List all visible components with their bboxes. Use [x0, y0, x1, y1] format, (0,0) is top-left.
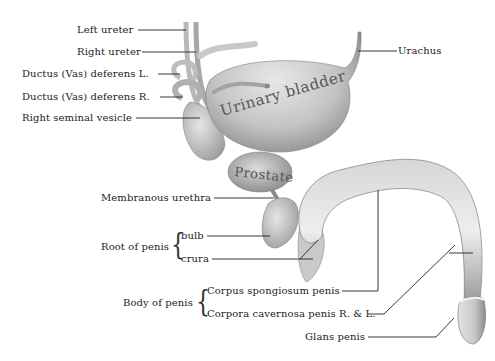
label-crura: crura: [181, 253, 209, 265]
penis-shaft: [299, 159, 482, 302]
label-corpora-cavernosa: Corpora cavernosa penis R. & L.: [207, 308, 376, 320]
label-membranous-urethra: Membranous urethra: [101, 192, 211, 204]
bulb: [262, 198, 298, 248]
label-glans-penis: Glans penis: [305, 331, 365, 343]
label-left-ureter: Left ureter: [77, 24, 133, 36]
label-right-ureter: Right ureter: [77, 46, 141, 58]
glans-penis: [458, 296, 486, 344]
label-ductus-deferens-l: Ductus (Vas) deferens L.: [22, 68, 149, 80]
label-urachus: Urachus: [398, 45, 441, 57]
label-body-of-penis: Body of penis: [123, 297, 193, 309]
label-corpus-spongiosum: Corpus spongiosum penis: [207, 285, 340, 297]
anatomy-figure: Urinary bladder Prostate: [0, 0, 495, 361]
label-root-of-penis: Root of penis: [101, 241, 169, 253]
label-right-seminal-vesicle: Right seminal vesicle: [22, 112, 132, 124]
label-ductus-deferens-r: Ductus (Vas) deferens R.: [22, 91, 150, 103]
label-bulb: bulb: [181, 230, 204, 242]
